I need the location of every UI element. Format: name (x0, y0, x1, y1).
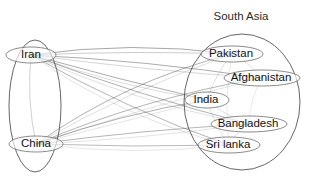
graph-canvas: South AsiaIranChinaPakistanAfghanistanIn… (0, 0, 310, 180)
node-label-iran[interactable]: Iran (21, 48, 41, 60)
node-label-bangladesh[interactable]: Bangladesh (218, 117, 279, 129)
network-diagram: South AsiaIranChinaPakistanAfghanistanIn… (0, 0, 310, 180)
node-label-pakistan[interactable]: Pakistan (209, 47, 253, 59)
node-label-china[interactable]: China (21, 137, 52, 149)
node-label-india[interactable]: India (194, 93, 220, 105)
edge-china-india (36, 100, 207, 144)
edge-iran-india (31, 55, 207, 100)
cluster-title-south-asia-cluster: South Asia (214, 10, 270, 22)
edge-iran-india (31, 55, 207, 100)
node-label-afghanistan[interactable]: Afghanistan (231, 71, 292, 83)
edge-iran-china (30, 55, 36, 144)
node-label-srilanka[interactable]: Sri lanka (206, 138, 251, 150)
